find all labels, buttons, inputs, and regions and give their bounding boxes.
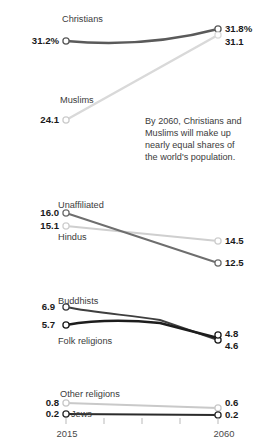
panel-other-jews: Other religions Jews 0.8 0.2 0.6 0.2	[46, 389, 239, 420]
other-religions-end-marker	[215, 405, 221, 411]
value-hindus-2060: 14.5	[225, 235, 244, 246]
muslims-end-marker	[215, 32, 221, 38]
value-buddhists-2060: 4.6	[225, 340, 238, 351]
panel-christians-muslims: Christians Muslims 31.2% 31.8% 24.1 31.1	[32, 14, 253, 125]
christians-start-marker	[63, 38, 69, 44]
annotation-line-4: the world's population.	[145, 152, 235, 162]
folk-religions-start-marker	[63, 322, 69, 328]
axis-label-left-year: 2015	[57, 428, 78, 439]
value-hindus-2015: 15.1	[40, 220, 59, 231]
value-folk-2060: 4.8	[225, 328, 239, 339]
panel-buddhists-folk: Buddhists Folk religions 6.9 5.7 4.8 4.6	[42, 296, 239, 351]
slope-chart: Christians Muslims 31.2% 31.8% 24.1 31.1…	[0, 0, 270, 441]
value-muslims-2060: 31.1	[225, 36, 244, 47]
value-folk-2015: 5.7	[42, 319, 55, 330]
other-religions-line	[66, 403, 218, 408]
hindus-end-marker	[215, 238, 221, 244]
hindus-start-marker	[63, 223, 69, 229]
jews-start-marker	[63, 411, 69, 417]
value-other-2060: 0.6	[225, 397, 238, 408]
value-jews-2060: 0.2	[225, 409, 238, 420]
x-axis: 2015 2060	[57, 418, 235, 439]
series-label-other-religions: Other religions	[60, 389, 120, 399]
value-unaffiliated-2060: 12.5	[225, 257, 244, 268]
annotation-line-1: By 2060, Christians and	[145, 116, 242, 126]
series-label-unaffiliated: Unaffiliated	[58, 200, 104, 210]
folk-religions-end-marker	[215, 332, 221, 338]
series-label-christians: Christians	[62, 14, 103, 24]
series-label-buddhists: Buddhists	[58, 296, 99, 306]
value-christians-2060: 31.8%	[225, 23, 253, 34]
other-religions-start-marker	[63, 400, 69, 406]
muslims-start-marker	[63, 117, 69, 123]
series-label-folk-religions: Folk religions	[58, 336, 113, 346]
value-buddhists-2015: 6.9	[42, 301, 55, 312]
value-unaffiliated-2015: 16.0	[40, 207, 59, 218]
christians-line	[66, 29, 218, 43]
panel-unaffiliated-hindus: Unaffiliated Hindus 16.0 15.1 14.5 12.5	[40, 200, 244, 268]
slope-chart-canvas: Christians Muslims 31.2% 31.8% 24.1 31.1…	[0, 0, 270, 441]
christians-end-marker	[215, 26, 221, 32]
value-jews-2015: 0.2	[46, 408, 59, 419]
muslims-line	[66, 35, 218, 120]
unaffiliated-end-marker	[215, 260, 221, 266]
jews-end-marker	[215, 412, 221, 418]
series-label-muslims: Muslims	[60, 95, 94, 105]
forecast-annotation: By 2060, Christians and Muslims will mak…	[145, 116, 242, 162]
value-muslims-2015: 24.1	[40, 114, 59, 125]
annotation-line-3: nearly equal shares of	[145, 140, 235, 150]
series-label-hindus: Hindus	[58, 232, 87, 242]
series-label-jews: Jews	[71, 409, 92, 419]
axis-label-right-year: 2060	[214, 428, 235, 439]
value-christians-2015: 31.2%	[32, 35, 60, 46]
value-other-2015: 0.8	[46, 397, 60, 408]
unaffiliated-start-marker	[63, 210, 69, 216]
annotation-line-2: Muslims will make up	[145, 128, 231, 138]
